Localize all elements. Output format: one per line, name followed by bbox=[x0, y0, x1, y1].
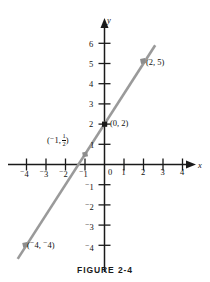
x-axis-label: x bbox=[198, 160, 202, 170]
point-label-neg4-neg4: (−4, −4) bbox=[27, 238, 55, 250]
x-tick-label-1: 1 bbox=[122, 167, 126, 177]
x-axis bbox=[8, 161, 196, 169]
y-tick-label-neg3: −3 bbox=[85, 220, 94, 232]
x-tick-label-neg3: −3 bbox=[40, 167, 49, 179]
x-tick-label-3: 3 bbox=[161, 167, 165, 177]
point-label-neg1-half: (−1, 12) bbox=[47, 133, 69, 147]
x-tick-label-neg2: −2 bbox=[59, 167, 68, 179]
x-tick-label-neg4: −4 bbox=[20, 167, 29, 179]
y-tick-label-3: 3 bbox=[89, 99, 93, 109]
y-tick-label-4: 4 bbox=[89, 79, 93, 89]
point-label-2-5: (2, 5) bbox=[146, 57, 164, 67]
x-tick-label-2: 2 bbox=[141, 167, 145, 177]
y-axis bbox=[101, 18, 109, 272]
y-tick-label-5: 5 bbox=[89, 59, 93, 69]
point-label-0-2: (0, 2) bbox=[110, 118, 128, 128]
figure-caption: FIGURE 2-4 bbox=[0, 265, 210, 275]
y-tick-label-neg1: −1 bbox=[85, 180, 94, 192]
y-tick-label-1: 1 bbox=[90, 140, 94, 150]
y-tick-label-neg4: −4 bbox=[85, 241, 94, 253]
y-tick-label-6: 6 bbox=[89, 39, 93, 49]
x-tick-label-neg1: −1 bbox=[79, 167, 88, 179]
origin-label: 0 bbox=[108, 167, 112, 177]
y-tick-label-2: 2 bbox=[89, 119, 93, 129]
y-tick-label-neg2: −2 bbox=[85, 200, 94, 212]
x-tick-label-4: 4 bbox=[180, 167, 184, 177]
y-axis-label: y bbox=[107, 15, 111, 25]
figure-2-4: x y 0 −4 −3 −2 −1 1 2 3 4 1 2 3 4 5 6 −1… bbox=[0, 0, 210, 282]
